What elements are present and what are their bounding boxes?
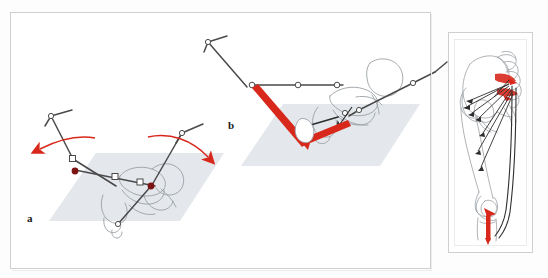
- panel-label-a: a: [27, 212, 33, 224]
- panel-label-b: b: [228, 119, 234, 131]
- panel-b-trunk-top-joint: [205, 39, 210, 44]
- inset-leg-panel: [449, 33, 533, 253]
- panel-a-right-hip-joint-marker: [148, 183, 155, 190]
- figure-canvas: [0, 0, 548, 278]
- figure-root: a b: [0, 0, 548, 278]
- panel-a-left-hip-joint-marker: [72, 168, 79, 175]
